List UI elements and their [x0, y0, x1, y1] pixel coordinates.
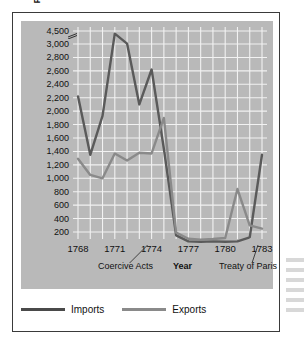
- y-axis-tick: 200: [54, 228, 69, 237]
- legend-item-exports[interactable]: Exports: [122, 304, 206, 315]
- y-axis-tick: 2,400: [46, 80, 69, 89]
- legend-item-imports[interactable]: Imports: [21, 304, 104, 315]
- y-axis-tick: 600: [54, 201, 69, 210]
- y-axis-tick: 2,000: [46, 107, 69, 116]
- y-axis-tick: 2,200: [46, 93, 69, 102]
- plot-area: [73, 27, 267, 239]
- annotation-coercive-acts: Coercive Acts: [98, 261, 153, 271]
- bleed-line: [286, 298, 304, 302]
- legend-label-imports: Imports: [71, 304, 104, 315]
- y-axis-tick: 1,200: [46, 160, 69, 169]
- y-axis-tick: 1,800: [46, 120, 69, 129]
- chart-panel: Pounds sterling (in thousands) 4,5003,00…: [21, 21, 273, 289]
- plot-svg: [73, 27, 267, 239]
- y-axis-tick: 400: [54, 214, 69, 223]
- gridlines: [73, 27, 267, 239]
- chart-legend: ImportsExports: [21, 301, 265, 317]
- y-axis-tick: 1,600: [46, 134, 69, 143]
- y-axis-tick: 800: [54, 187, 69, 196]
- legend-swatch-exports: [122, 308, 166, 311]
- page-text-bleed: [284, 252, 306, 344]
- bleed-line: [286, 308, 304, 312]
- legend-label-exports: Exports: [172, 304, 206, 315]
- annotation-treaty-of-paris: Treaty of Paris: [219, 261, 277, 271]
- x-axis-title: Year: [173, 261, 192, 271]
- bleed-line: [286, 258, 304, 262]
- bleed-line: [286, 278, 304, 282]
- chart-annotations: Year Coercive ActsTreaty of Paris: [21, 259, 273, 281]
- y-axis-tick: 1,400: [46, 147, 69, 156]
- y-axis-tick: 1,000: [46, 174, 69, 183]
- y-axis-tick: 2,800: [46, 53, 69, 62]
- y-axis-tick: 2,600: [46, 66, 69, 75]
- y-axis-tick: 3,000: [46, 40, 69, 49]
- figure-frame: Pounds sterling (in thousands) 4,5003,00…: [12, 12, 280, 332]
- legend-swatch-imports: [21, 308, 65, 311]
- bleed-line: [286, 288, 304, 292]
- bleed-line: [286, 268, 304, 272]
- y-axis-tick: 4,500: [46, 27, 69, 36]
